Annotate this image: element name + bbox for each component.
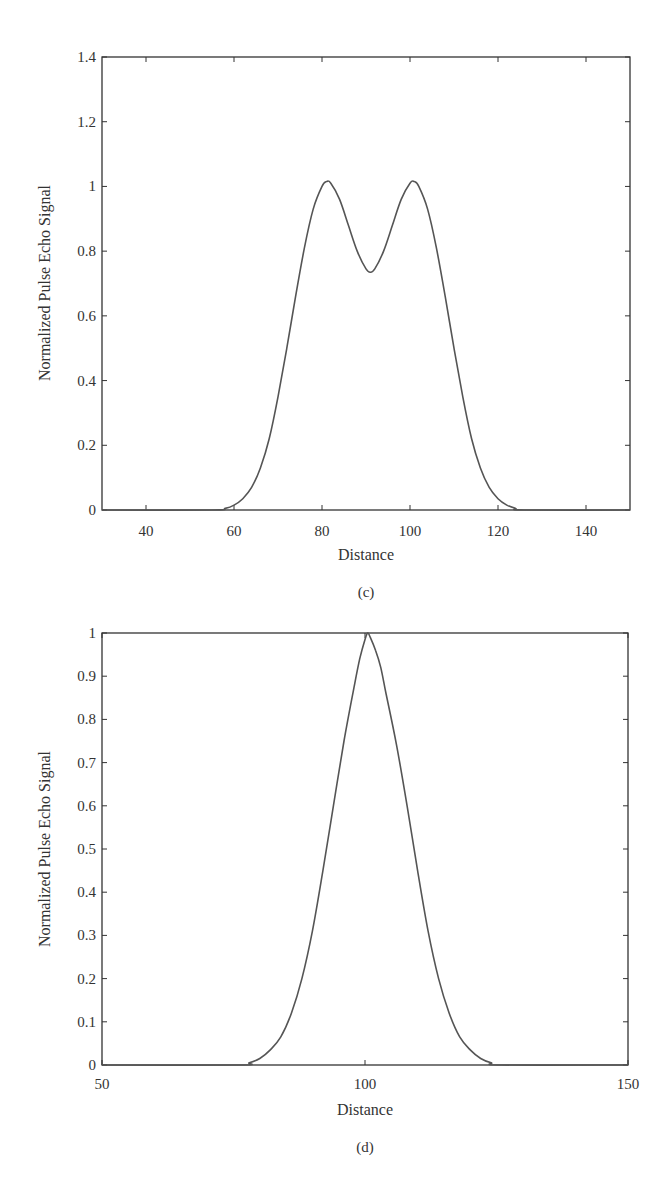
y-tick-label: 0.2 — [77, 971, 96, 987]
y-tick-label: 0.8 — [77, 243, 96, 259]
x-tick-label: 100 — [354, 1076, 377, 1092]
y-tick-label: 0.1 — [77, 1014, 96, 1030]
x-axis-label: Distance — [337, 1101, 393, 1118]
y-tick-label: 0.8 — [77, 711, 96, 727]
plot-frame — [102, 633, 628, 1065]
y-axis-label: Normalized Pulse Echo Signal — [36, 750, 54, 947]
y-tick-label: 0 — [89, 502, 97, 518]
y-tick-label: 0.6 — [77, 308, 96, 324]
x-tick-label: 40 — [139, 523, 154, 539]
y-tick-label: 0.5 — [77, 841, 96, 857]
panel-caption: (c) — [358, 584, 375, 601]
y-tick-label: 1.2 — [77, 114, 96, 130]
y-tick-label: 0.4 — [77, 373, 96, 389]
x-tick-label: 150 — [617, 1076, 640, 1092]
y-tick-label: 0.4 — [77, 884, 96, 900]
x-tick-label: 60 — [227, 523, 242, 539]
y-tick-label: 0.9 — [77, 668, 96, 684]
panel-caption: (d) — [356, 1139, 374, 1156]
y-tick-label: 0 — [89, 1057, 97, 1073]
x-tick-label: 50 — [95, 1076, 110, 1092]
chart-panel-c: 00.20.40.60.811.21.4 406080100120140 Nor… — [36, 49, 630, 601]
x-tick-label: 140 — [575, 523, 598, 539]
data-line — [102, 633, 628, 1065]
y-axis-ticks: 00.20.40.60.811.21.4 — [77, 49, 630, 518]
figure: 00.20.40.60.811.21.4 406080100120140 Nor… — [0, 0, 666, 1197]
y-tick-label: 0.3 — [77, 927, 96, 943]
y-axis-label: Normalized Pulse Echo Signal — [36, 184, 54, 381]
y-tick-label: 1.4 — [77, 49, 96, 65]
y-tick-label: 1 — [89, 625, 97, 641]
y-tick-label: 0.7 — [77, 755, 96, 771]
x-tick-label: 80 — [315, 523, 330, 539]
x-axis-label: Distance — [338, 546, 394, 563]
plot-frame — [102, 57, 630, 510]
x-tick-label: 120 — [487, 523, 510, 539]
x-tick-label: 100 — [399, 523, 422, 539]
y-tick-label: 0.2 — [77, 437, 96, 453]
x-axis-ticks: 406080100120140 — [139, 57, 598, 539]
chart-panel-d: 00.10.20.30.40.50.60.70.80.91 50100150 N… — [36, 625, 639, 1156]
y-tick-label: 0.6 — [77, 798, 96, 814]
y-tick-label: 1 — [89, 178, 97, 194]
data-line — [102, 181, 630, 510]
x-axis-ticks: 50100150 — [95, 633, 640, 1092]
